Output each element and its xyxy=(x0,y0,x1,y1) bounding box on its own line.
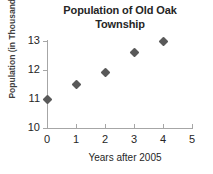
data-point-0 xyxy=(42,94,52,104)
x-tick-0 xyxy=(47,124,48,128)
x-axis-title: Years after 2005 xyxy=(40,152,210,163)
x-tick-label-3: 3 xyxy=(126,133,142,145)
data-point-3 xyxy=(129,48,139,58)
y-axis-line xyxy=(47,40,48,129)
x-tick-label-2: 2 xyxy=(97,133,113,145)
y-tick-label-12-wrap: 12 xyxy=(14,64,40,75)
x-tick-2 xyxy=(105,124,106,128)
data-point-1 xyxy=(71,80,81,90)
y-tick-label-11: 11 xyxy=(18,93,40,104)
x-tick-label-1: 1 xyxy=(68,133,84,145)
y-tick-label-10-wrap: 10 xyxy=(14,122,40,133)
x-tick-1 xyxy=(76,124,77,128)
x-axis-line xyxy=(47,128,193,129)
y-tick-label-10: 10 xyxy=(18,122,40,133)
y-tick-10 xyxy=(43,128,47,129)
x-tick-label-5: 5 xyxy=(184,133,200,145)
y-tick-label-12: 12 xyxy=(18,64,40,75)
population-scatter-chart: Population of Old Oak Township Populatio… xyxy=(0,0,213,174)
x-tick-4 xyxy=(163,124,164,128)
y-tick-12 xyxy=(43,70,47,71)
y-tick-label-13-wrap: 13 xyxy=(14,35,40,46)
x-tick-5 xyxy=(192,124,193,128)
data-point-4 xyxy=(158,36,168,46)
data-point-2 xyxy=(100,68,110,78)
plot-area: 13 12 11 10 0 1 2 3 4 5 xyxy=(0,0,213,174)
y-tick-13 xyxy=(43,41,47,42)
y-tick-label-13: 13 xyxy=(18,35,40,46)
x-tick-label-4: 4 xyxy=(155,133,171,145)
x-tick-3 xyxy=(134,124,135,128)
x-tick-label-0: 0 xyxy=(39,133,55,145)
y-tick-label-11-wrap: 11 xyxy=(14,93,40,104)
